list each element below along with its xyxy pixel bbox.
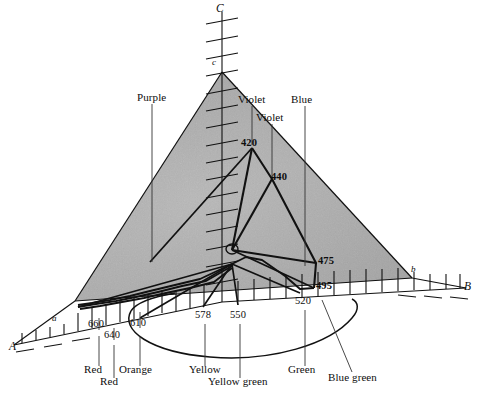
wavelength-label-660: 660 (88, 319, 104, 330)
figure-canvas: C c A a B b 420 440 475 495 520 550 578 … (0, 0, 477, 395)
color-triangle-svg (0, 0, 477, 395)
axis-minor-label-a: a (52, 314, 57, 323)
axis-label-C: C (216, 3, 224, 15)
axis-minor-label-c: c (212, 58, 216, 67)
color-label-red-2: Red (100, 376, 118, 387)
color-label-green: Green (288, 364, 315, 375)
wavelength-label-578: 578 (195, 310, 211, 321)
color-label-yellow: Yellow (189, 364, 221, 375)
color-label-blue: Blue (291, 94, 312, 105)
color-label-yellow-green: Yellow green (208, 376, 268, 387)
wavelength-label-475: 475 (318, 256, 334, 267)
color-label-purple: Purple (137, 92, 166, 103)
color-label-blue-green: Blue green (328, 372, 377, 383)
wavelength-label-550: 550 (230, 310, 246, 321)
color-label-violet-1: Violet (238, 94, 265, 105)
color-label-violet-2: Violet (256, 112, 283, 123)
axis-label-B: B (464, 281, 471, 293)
wavelength-label-520: 520 (295, 296, 311, 307)
color-label-red-1: Red (84, 364, 102, 375)
wavelength-label-420: 420 (241, 138, 257, 149)
wavelength-label-610: 610 (130, 318, 146, 329)
axis-minor-label-b: b (411, 265, 416, 274)
wavelength-label-440: 440 (271, 172, 287, 183)
axis-label-A: A (9, 341, 16, 353)
color-label-orange: Orange (119, 364, 152, 375)
wavelength-label-495: 495 (316, 281, 332, 292)
wavelength-label-640: 640 (104, 330, 120, 341)
